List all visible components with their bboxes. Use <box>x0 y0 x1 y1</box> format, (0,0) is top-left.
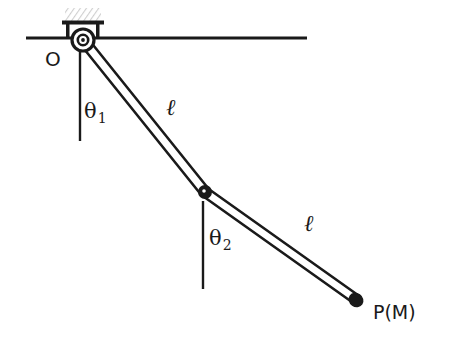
middle-joint <box>199 186 211 198</box>
pendulum-diagram <box>0 0 468 342</box>
label-pivot-O: O <box>45 49 61 69</box>
theta2-symbol: θ <box>209 226 222 250</box>
double-pendulum-figure: O θ1 θ2 ℓ ℓ P(M) <box>0 0 468 342</box>
support-block <box>65 8 101 21</box>
theta1-subscript: 1 <box>98 110 107 126</box>
pivot-joint <box>72 29 94 51</box>
theta1-symbol: θ <box>84 99 97 123</box>
label-length-lower: ℓ <box>304 212 314 235</box>
theta2-subscript: 2 <box>223 237 232 253</box>
label-mass-point: P(M) <box>373 303 416 322</box>
label-theta-2: θ2 <box>209 228 232 252</box>
label-length-upper: ℓ <box>166 96 176 119</box>
label-theta-1: θ1 <box>84 101 107 125</box>
